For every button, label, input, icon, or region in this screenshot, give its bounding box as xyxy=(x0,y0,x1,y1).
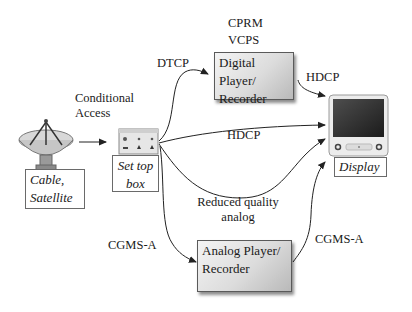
settop-label-line1: Set top xyxy=(117,157,154,175)
access-label-line2: Access xyxy=(75,106,134,121)
digital-label-line2: Recorder xyxy=(219,90,289,108)
source-node-label: Cable, Satellite xyxy=(25,169,85,209)
cgms-right-label: CGMS-A xyxy=(315,232,364,247)
display-label: Display xyxy=(339,159,379,174)
edge-cgms-right xyxy=(293,162,325,262)
hdcp-middle-label: HDCP xyxy=(227,128,260,143)
digital-player-recorder-node: Digital Player/ Recorder xyxy=(214,52,294,100)
analog-player-recorder-node: Analog Player/ Recorder xyxy=(197,240,292,292)
reduced-label-line2: analog xyxy=(183,210,293,225)
reduced-quality-analog-label: Reduced quality analog xyxy=(183,195,293,225)
monitor-icon xyxy=(329,95,388,156)
source-label-line1: Cable, xyxy=(30,171,80,189)
satellite-dish-icon xyxy=(19,119,73,171)
hdcp-top-label: HDCP xyxy=(306,70,339,85)
settop-node-label: Set top box xyxy=(112,155,159,192)
cgms-left-label: CGMS-A xyxy=(108,238,157,253)
vcps-label: VCPS xyxy=(228,33,259,48)
dtcp-label: DTCP xyxy=(157,56,189,71)
display-node-label: Display xyxy=(334,157,387,177)
source-label-line2: Satellite xyxy=(30,189,80,207)
analog-label-line1: Analog Player/ xyxy=(202,242,287,260)
digital-label-line1: Digital Player/ xyxy=(219,54,289,90)
reduced-label-line1: Reduced quality xyxy=(183,195,293,210)
edge-dtcp xyxy=(159,70,208,141)
conditional-label-line1: Conditional xyxy=(75,91,134,106)
cprm-label: CPRM xyxy=(228,16,263,31)
analog-label-line2: Recorder xyxy=(202,260,287,278)
edge-reduced-analog xyxy=(159,139,325,198)
conditional-access-label: Conditional Access xyxy=(75,91,134,121)
set-top-box-icon xyxy=(119,129,158,154)
settop-label-line2: box xyxy=(117,175,154,193)
